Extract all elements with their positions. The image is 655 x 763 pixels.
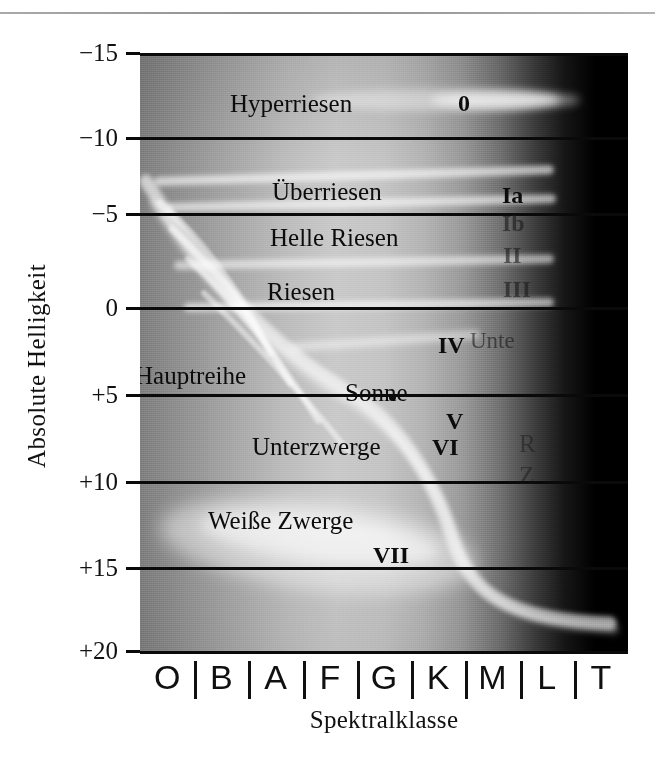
- label-luminosity-class-vii: VII: [373, 543, 409, 567]
- spectral-class-label: L: [537, 658, 556, 697]
- label-weisse-zwerge: Weiße Zwerge: [208, 508, 353, 533]
- spectral-class-cell: G: [357, 658, 411, 704]
- label-luminosity-class-0: 0: [458, 91, 470, 115]
- gridline-minus5: [140, 213, 628, 216]
- y-axis-tick: [126, 567, 140, 570]
- label-luminosity-class-iv: IV: [438, 333, 465, 357]
- label-zwerge-truncated: Z: [519, 463, 534, 488]
- spectral-class-row: O B A F G K M L T: [140, 658, 628, 704]
- label-rote-zwerge-truncated: R: [519, 431, 536, 456]
- y-axis-tick: [126, 213, 140, 216]
- spectral-class-label: K: [427, 658, 450, 697]
- sun-marker-dot: [389, 394, 396, 401]
- gridline-minus15: [140, 53, 628, 56]
- spectral-class-label: T: [590, 658, 611, 697]
- spectral-class-cell: F: [303, 658, 357, 704]
- y-tick-label: 0: [106, 294, 119, 322]
- gridline-minus10: [140, 137, 628, 140]
- y-tick-label: +15: [79, 554, 118, 582]
- spectral-class-label: M: [478, 658, 506, 697]
- label-luminosity-class-v: V: [446, 409, 463, 433]
- label-luminosity-class-ii: II: [503, 243, 522, 267]
- gridline-plus10: [140, 481, 628, 484]
- y-axis-tick: [126, 307, 140, 310]
- y-axis-tick: [126, 394, 140, 397]
- spectral-class-cell: L: [520, 658, 574, 704]
- label-luminosity-class-ib: Ib: [502, 211, 525, 235]
- y-axis-tick: [126, 650, 140, 653]
- spectral-class-label: O: [154, 658, 180, 697]
- label-luminosity-class-vi: VI: [432, 435, 459, 459]
- label-hyperriesen: Hyperriesen: [230, 91, 352, 116]
- y-tick-label: −5: [91, 200, 118, 228]
- y-axis-tick: [126, 481, 140, 484]
- label-helle-riesen: Helle Riesen: [270, 225, 398, 250]
- x-axis-title: Spektralklasse: [140, 706, 628, 734]
- spectral-class-cell: T: [574, 658, 628, 704]
- label-luminosity-class-ia: Ia: [502, 183, 523, 207]
- spectral-class-label: F: [319, 658, 340, 697]
- label-unterzwerge: Unterzwerge: [252, 434, 381, 459]
- label-unterriesen-truncated: Unte: [470, 329, 515, 352]
- spectral-class-cell: K: [411, 658, 465, 704]
- hr-diagram-plot-area: Hyperriesen 0 Überriesen Ia Ib Helle Rie…: [140, 53, 628, 651]
- spectral-class-cell: B: [194, 658, 248, 704]
- spectral-class-label: G: [371, 658, 397, 697]
- spectral-class-cell: M: [465, 658, 519, 704]
- y-axis-tick-column: −15 −10 −5 0 +5 +10 +15 +20: [0, 0, 124, 763]
- label-hauptreihe: Hauptreihe: [140, 363, 246, 388]
- y-tick-label: +5: [91, 381, 118, 409]
- spectral-class-label: A: [264, 658, 287, 697]
- y-tick-label: +20: [79, 637, 118, 665]
- spectral-class-label: B: [210, 658, 233, 697]
- label-riesen: Riesen: [267, 279, 335, 304]
- y-tick-label: +10: [79, 468, 118, 496]
- gridline-zero: [140, 307, 628, 310]
- label-luminosity-class-iii: III: [503, 277, 531, 301]
- label-ueberriesen: Überriesen: [272, 179, 382, 204]
- spectral-class-cell: O: [140, 658, 194, 704]
- y-tick-label: −10: [79, 124, 118, 152]
- y-axis-tick: [126, 52, 140, 55]
- y-axis-tick: [126, 137, 140, 140]
- label-sonne: Sonne: [345, 380, 408, 405]
- spectral-class-cell: A: [248, 658, 302, 704]
- x-axis-line: [140, 651, 628, 654]
- y-tick-label: −15: [79, 39, 118, 67]
